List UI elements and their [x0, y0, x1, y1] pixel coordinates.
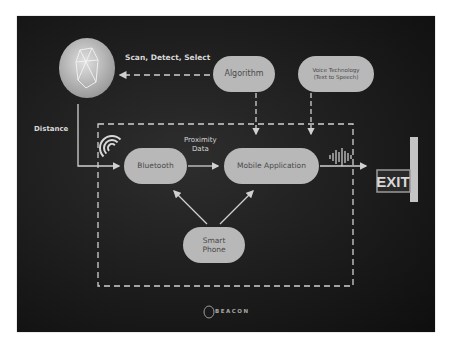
- algorithm-label: Algorithm: [224, 69, 263, 79]
- proximity-line1: Proximity: [184, 136, 217, 145]
- mobile-application-label: Mobile Application: [237, 161, 306, 170]
- mobile-application-node: Mobile Application: [224, 148, 319, 184]
- algorithm-node: Algorithm: [213, 56, 275, 92]
- exit-sign-icon: [377, 137, 418, 202]
- beacon-logo-text: BEACON: [215, 308, 250, 314]
- distance-label: Distance: [34, 125, 68, 133]
- bluetooth-node: Bluetooth: [124, 148, 187, 184]
- smart-phone-label-line2: Phone: [202, 245, 225, 254]
- wifi-signal-icon: [95, 131, 120, 156]
- proximity-line2: Data: [184, 145, 217, 154]
- beacon-device-icon: [59, 38, 115, 98]
- smart-phone-label-line1: Smart: [203, 236, 226, 245]
- sound-wave-icon: [330, 148, 351, 166]
- beacon-logo-icon: [204, 306, 214, 318]
- smart-phone-node: Smart Phone: [183, 227, 245, 263]
- voice-label-line2: (Text to Speech): [314, 74, 359, 81]
- bluetooth-label: Bluetooth: [137, 161, 173, 170]
- voice-technology-node: Voice Technology (Text to Speech): [298, 56, 374, 92]
- scan-detect-select-label: Scan, Detect, Select: [125, 53, 210, 62]
- voice-label-line1: Voice Technology: [312, 67, 359, 74]
- svg-text:EXIT: EXIT: [376, 173, 409, 190]
- proximity-data-label: Proximity Data: [184, 136, 217, 154]
